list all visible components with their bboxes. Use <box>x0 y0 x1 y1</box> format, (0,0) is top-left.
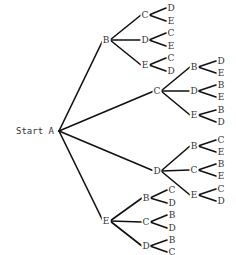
edge-leaf <box>198 67 216 73</box>
edge-leaf <box>198 85 216 91</box>
edge-leaf <box>150 222 167 228</box>
edge-leaf <box>149 8 166 15</box>
node-leaf-e: E <box>167 41 176 51</box>
edge-d-c <box>161 170 190 171</box>
node-level2-d: D <box>141 241 150 251</box>
edge-leaf <box>198 110 216 115</box>
edge-leaf <box>198 189 216 195</box>
node-leaf-c: C <box>217 184 226 194</box>
edge-leaf <box>149 33 166 40</box>
edge-leaf <box>198 140 216 146</box>
node-level2-d: D <box>140 35 149 45</box>
node-level1-c: C <box>153 86 162 96</box>
tree-diagram: Start A BCDEDCEECDCBDEDBEEBDDBCECBEECDEB… <box>0 0 236 255</box>
edge-leaf <box>150 246 167 252</box>
edge-leaf <box>150 240 167 246</box>
node-level2-c: C <box>190 165 199 175</box>
node-leaf-d: D <box>166 66 175 76</box>
node-leaf-e: E <box>167 16 176 26</box>
edge-leaf <box>198 195 216 201</box>
edge-e-c <box>110 221 142 222</box>
node-level2-b: B <box>190 62 199 72</box>
node-leaf-d: D <box>167 198 176 208</box>
node-leaf-e: E <box>217 68 226 78</box>
node-level1-d: D <box>152 166 161 176</box>
edge-a-b <box>59 40 103 131</box>
edge-e-b <box>110 198 142 221</box>
edge-e-d <box>110 221 142 246</box>
node-level2-e: E <box>190 110 199 120</box>
node-leaf-d: D <box>216 56 225 66</box>
node-level2-b: B <box>190 141 199 151</box>
edge-a-d <box>59 131 154 171</box>
start-label: Start A <box>16 126 54 136</box>
node-leaf-c: C <box>168 247 177 255</box>
node-level1-b: B <box>102 35 111 45</box>
edge-leaf <box>149 58 166 65</box>
node-leaf-d: D <box>216 117 225 127</box>
edge-leaf <box>149 40 166 46</box>
node-leaf-d: D <box>216 196 225 206</box>
node-leaf-c: C <box>168 185 177 195</box>
edge-b-e <box>110 40 141 65</box>
edge-leaf <box>198 61 216 67</box>
node-leaf-b: B <box>217 105 226 115</box>
edge-a-e <box>59 131 103 221</box>
node-leaf-c: C <box>167 28 176 38</box>
edge-leaf <box>149 15 166 21</box>
node-leaf-c: C <box>217 135 226 145</box>
node-leaf-e: E <box>217 147 226 157</box>
node-leaf-d: D <box>167 223 176 233</box>
node-leaf-e: E <box>217 171 226 181</box>
node-leaf-c: C <box>167 53 176 63</box>
node-leaf-b: B <box>168 235 177 245</box>
node-level2-b: B <box>142 193 151 203</box>
node-level1-e: E <box>102 216 111 226</box>
edge-leaf <box>198 146 216 152</box>
node-level2-c: C <box>141 10 150 20</box>
node-leaf-b: B <box>217 159 226 169</box>
edge-b-c <box>110 15 141 40</box>
edge-a-c <box>59 91 154 131</box>
node-leaf-d: D <box>166 3 175 13</box>
node-level2-d: D <box>189 86 198 96</box>
edge-leaf <box>150 190 167 198</box>
edge-leaf <box>150 198 167 203</box>
node-level2-c: C <box>142 217 151 227</box>
node-leaf-e: E <box>217 92 226 102</box>
edge-d-b <box>161 146 190 171</box>
node-leaf-b: B <box>217 80 226 90</box>
edge-leaf <box>150 215 167 222</box>
edge-leaf <box>198 164 216 170</box>
node-leaf-b: B <box>168 210 177 220</box>
edge-leaf <box>198 115 216 122</box>
edge-leaf <box>198 91 216 97</box>
node-level2-e: E <box>190 190 199 200</box>
edge-leaf <box>198 170 216 176</box>
edge-c-e <box>161 91 190 115</box>
edge-leaf <box>149 65 166 71</box>
node-level2-e: E <box>141 60 150 70</box>
